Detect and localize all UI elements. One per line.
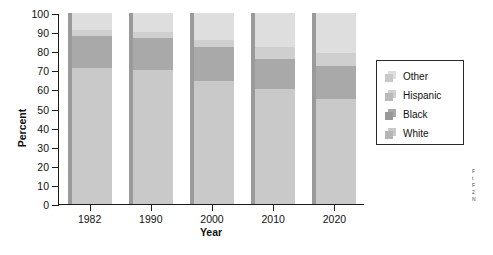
x-axis-tick xyxy=(273,204,274,211)
bar-stack xyxy=(316,13,356,204)
x-axis-tick xyxy=(90,204,91,211)
y-axis-tick xyxy=(52,167,59,168)
y-axis-tick-label: 20 xyxy=(37,162,49,173)
bar-1982 xyxy=(68,13,112,204)
legend-item-label: Hispanic xyxy=(403,91,441,101)
legend-item-black[interactable]: Black xyxy=(385,105,463,124)
bar-segment-white xyxy=(72,68,112,204)
bar-segment-hispanic xyxy=(194,40,234,48)
y-axis-tick xyxy=(52,52,59,53)
y-axis-tick-label: 100 xyxy=(31,9,49,20)
y-axis-tick xyxy=(52,14,59,15)
y-axis-tick-label: 40 xyxy=(37,123,49,134)
plot-area: 0102030405060708090100198219902000201020… xyxy=(58,14,364,205)
bar-segment-other xyxy=(255,13,295,47)
y-axis-tick-label: 60 xyxy=(37,85,49,96)
legend-item-label: Other xyxy=(403,72,428,82)
bar-segment-black xyxy=(255,59,295,90)
y-axis-tick xyxy=(52,148,59,149)
caption-line: t xyxy=(472,175,493,182)
y-axis-tick xyxy=(52,90,59,91)
bar-segment-black xyxy=(133,38,173,70)
bar-2020 xyxy=(312,13,356,204)
bar-segment-hispanic xyxy=(255,47,295,58)
caption-line: N xyxy=(472,196,493,203)
caption-sliver: FtF2N xyxy=(472,168,493,203)
caption-line: 2 xyxy=(472,189,493,196)
x-axis-title: Year xyxy=(58,226,364,238)
bar-stack xyxy=(255,13,295,204)
legend-swatch-icon xyxy=(385,71,396,82)
legend-item-label: Black xyxy=(403,110,427,120)
y-axis-tick-label: 70 xyxy=(37,66,49,77)
y-axis-title: Percent xyxy=(16,108,28,147)
stacked-bar-chart: Percent 01020304050607080901001982199020… xyxy=(0,0,493,255)
bar-stack xyxy=(72,13,112,204)
x-axis-tick xyxy=(334,204,335,211)
legend-swatch-icon xyxy=(385,128,396,139)
y-axis-tick xyxy=(52,110,59,111)
bar-segment-black xyxy=(194,47,234,80)
bar-segment-hispanic xyxy=(316,53,356,66)
bar-segment-other xyxy=(316,13,356,53)
bar-segment-hispanic xyxy=(72,30,112,36)
chart-legend: OtherHispanicBlackWhite xyxy=(376,60,464,145)
legend-swatch-icon xyxy=(385,109,396,120)
bar-segment-black xyxy=(72,36,112,68)
y-axis-tick-label: 10 xyxy=(37,181,49,192)
x-axis-tick-label: 2000 xyxy=(200,213,223,225)
bar-stack xyxy=(194,13,234,204)
y-axis-tick-label: 90 xyxy=(37,28,49,39)
x-axis-tick-label: 1982 xyxy=(78,213,101,225)
legend-item-hispanic[interactable]: Hispanic xyxy=(385,86,463,105)
bar-segment-white xyxy=(316,99,356,204)
caption-line: F xyxy=(472,182,493,189)
bar-segment-black xyxy=(316,66,356,98)
y-axis-tick-label: 30 xyxy=(37,142,49,153)
bar-segment-other xyxy=(133,13,173,32)
y-axis-tick xyxy=(52,71,59,72)
y-axis-tick xyxy=(52,205,59,206)
y-axis-tick-label: 80 xyxy=(37,47,49,58)
legend-item-other[interactable]: Other xyxy=(385,67,463,86)
y-axis-tick xyxy=(52,33,59,34)
x-axis-tick xyxy=(151,204,152,211)
y-axis-tick xyxy=(52,186,59,187)
bar-segment-white xyxy=(194,81,234,204)
x-axis-tick-label: 2020 xyxy=(323,213,346,225)
bar-segment-white xyxy=(133,70,173,204)
bar-segment-white xyxy=(255,89,295,204)
bar-stack xyxy=(133,13,173,204)
bar-2000 xyxy=(190,13,234,204)
x-axis-tick-label: 1990 xyxy=(139,213,162,225)
bar-segment-other xyxy=(72,13,112,30)
bar-segment-hispanic xyxy=(133,32,173,38)
y-axis-tick-label: 0 xyxy=(43,200,49,211)
legend-item-white[interactable]: White xyxy=(385,124,463,143)
x-axis-tick-label: 2010 xyxy=(262,213,285,225)
y-axis-tick xyxy=(52,129,59,130)
legend-swatch-icon xyxy=(385,90,396,101)
bar-segment-other xyxy=(194,13,234,40)
y-axis-tick-label: 50 xyxy=(37,104,49,115)
bar-1990 xyxy=(129,13,173,204)
x-axis-tick xyxy=(212,204,213,211)
bar-2010 xyxy=(251,13,295,204)
legend-item-label: White xyxy=(403,129,429,139)
caption-line: F xyxy=(472,168,493,175)
